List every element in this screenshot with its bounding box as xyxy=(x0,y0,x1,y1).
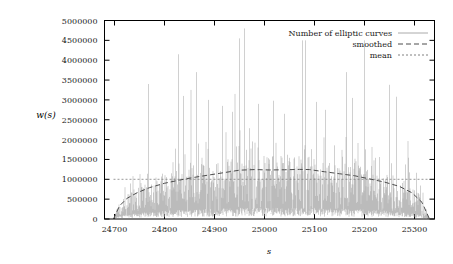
chart-canvas: 0500000100000015000002000000250000030000… xyxy=(0,0,453,264)
x-tick-label: 25100 xyxy=(302,225,327,234)
y-tick-label: 500000 xyxy=(67,195,98,204)
x-tick-label: 24700 xyxy=(102,225,127,234)
legend-label: Number of elliptic curves xyxy=(289,29,392,38)
x-tick-label: 24800 xyxy=(152,225,177,234)
x-tick-label: 24900 xyxy=(202,225,227,234)
y-tick-label: 3000000 xyxy=(62,96,98,105)
x-axis-label: s xyxy=(267,247,271,256)
y-tick-label: 4000000 xyxy=(62,56,98,65)
y-tick-label: 1500000 xyxy=(62,155,98,164)
chart-figure: 0500000100000015000002000000250000030000… xyxy=(0,0,453,264)
legend-label: mean xyxy=(370,51,392,60)
y-tick-label: 2000000 xyxy=(62,136,98,145)
y-axis-label: w(s) xyxy=(36,110,56,120)
x-tick-label: 25300 xyxy=(402,225,427,234)
y-tick-label: 0 xyxy=(92,215,97,224)
y-tick-label: 4500000 xyxy=(62,36,98,45)
y-tick-label: 5000000 xyxy=(62,17,98,26)
y-tick-label: 2500000 xyxy=(62,116,98,125)
legend-label: smoothed xyxy=(352,40,392,49)
y-tick-label: 3500000 xyxy=(62,76,98,85)
x-tick-label: 25200 xyxy=(352,225,377,234)
y-tick-label: 1000000 xyxy=(62,175,98,184)
x-tick-label: 25000 xyxy=(252,225,277,234)
